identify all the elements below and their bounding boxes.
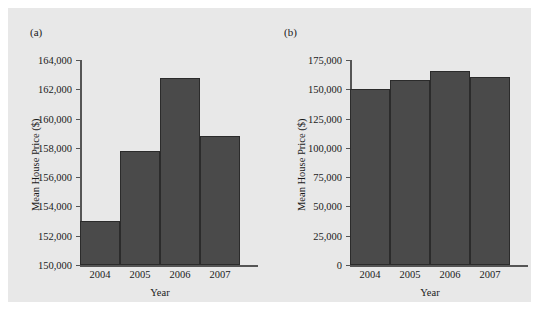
y-tick-label: 150,000	[38, 260, 72, 271]
y-tick-mark	[76, 89, 80, 90]
y-tick-label: 0	[337, 260, 342, 271]
y-tick-label: 150,000	[308, 84, 342, 95]
x-tick-label: 2006	[160, 269, 200, 280]
bar-2007	[470, 77, 510, 265]
y-tick-label: 164,000	[38, 55, 72, 66]
y-tick-label: 175,000	[308, 55, 342, 66]
y-tick-mark	[346, 265, 350, 266]
figure-canvas: (a) 150,000152,000154,000156,000158,0001…	[8, 8, 531, 302]
bar-2004	[350, 89, 390, 265]
x-axis-line	[350, 265, 528, 267]
y-axis-title: Mean House Price ($)	[296, 118, 307, 210]
bar-2006	[430, 71, 470, 265]
x-tick-label: 2006	[430, 269, 470, 280]
x-tick-label: 2004	[350, 269, 390, 280]
y-tick-label: 25,000	[313, 230, 342, 241]
x-axis-title: Year	[350, 287, 510, 298]
bar-2004	[80, 221, 120, 265]
x-axis-title: Year	[80, 287, 240, 298]
panel-label-a: (a)	[30, 26, 42, 38]
y-tick-label: 156,000	[38, 172, 72, 183]
bar-2006	[160, 78, 200, 265]
y-tick-label: 162,000	[38, 84, 72, 95]
x-tick-label: 2005	[390, 269, 430, 280]
plot-area-b: 025,00050,00075,000100,000125,000150,000…	[350, 60, 510, 265]
y-axis-title: Mean House Price ($)	[30, 118, 41, 210]
y-tick-label: 160,000	[38, 113, 72, 124]
y-tick-mark	[76, 177, 80, 178]
y-tick-mark	[346, 60, 350, 61]
x-tick-label: 2007	[470, 269, 510, 280]
plot-area-a: 150,000152,000154,000156,000158,000160,0…	[80, 60, 240, 265]
x-tick-label: 2004	[80, 269, 120, 280]
chart-panel-b: (b) 025,00050,00075,000100,000125,000150…	[270, 8, 531, 302]
y-tick-label: 50,000	[313, 201, 342, 212]
y-tick-label: 158,000	[38, 142, 72, 153]
bar-2007	[200, 136, 240, 265]
y-tick-label: 125,000	[308, 113, 342, 124]
bar-2005	[120, 151, 160, 265]
y-tick-mark	[76, 265, 80, 266]
y-tick-label: 154,000	[38, 201, 72, 212]
bar-2005	[390, 80, 430, 265]
y-tick-label: 75,000	[313, 172, 342, 183]
x-tick-label: 2007	[200, 269, 240, 280]
y-tick-label: 100,000	[308, 142, 342, 153]
x-tick-label: 2005	[120, 269, 160, 280]
y-tick-mark	[76, 119, 80, 120]
y-tick-mark	[76, 60, 80, 61]
x-axis-line	[80, 265, 258, 267]
y-tick-label: 152,000	[38, 230, 72, 241]
chart-panel-a: (a) 150,000152,000154,000156,000158,0001…	[8, 8, 270, 302]
y-tick-mark	[76, 148, 80, 149]
y-tick-mark	[76, 206, 80, 207]
panel-label-b: (b)	[284, 26, 297, 38]
